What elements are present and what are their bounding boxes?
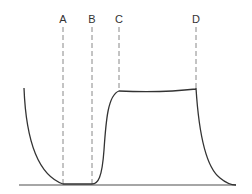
diagram: A B C D [0,0,252,194]
marker-label-a: A [59,13,67,25]
response-curve [24,88,236,185]
diagram-canvas: A B C D [0,0,252,194]
marker-label-d: D [192,13,200,25]
marker-label-c: C [115,13,123,25]
marker-label-b: B [88,13,95,25]
